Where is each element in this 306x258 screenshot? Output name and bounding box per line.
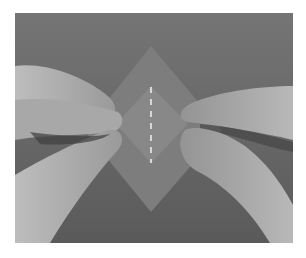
origami-photo bbox=[15, 13, 293, 243]
